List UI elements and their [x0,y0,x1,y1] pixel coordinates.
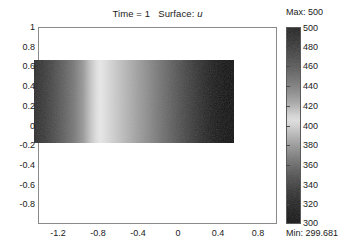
y-tick: -0.8 [1,199,35,209]
x-tick: -0.4 [116,228,160,238]
surface-gradient-image [34,60,234,143]
colorbar-tick: 340 [303,180,318,190]
colorbar-tick-mark [286,145,290,146]
y-tick: 0.2 [1,101,35,111]
surface-plot-figure: Time = 1 Surface: u [0,0,364,250]
y-axis-tick-labels: 1 0.8 0.6 0.4 0.2 0 -0.2 -0.4 -0.6 -0.8 [0,0,35,250]
colorbar-tick-mark [286,185,290,186]
colorbar-tick-mark [286,66,290,67]
y-tick: 1 [1,22,35,32]
colorbar-tick: 500 [303,23,318,33]
colorbar-tick: 360 [303,160,318,170]
colorbar-tick: 420 [303,101,318,111]
y-tick: -0.4 [1,160,35,170]
y-tick: 0 [1,121,35,131]
colorbar-tick-mark [286,47,290,48]
colorbar-tick: 480 [303,42,318,52]
surface-heatmap [34,60,234,143]
x-tick: 0.8 [236,228,280,238]
colorbar-tick: 460 [303,61,318,71]
colorbar-tick-mark [286,165,290,166]
x-tick: -1.2 [36,228,80,238]
colorbar-tick: 380 [303,140,318,150]
colorbar-tick-mark [286,86,290,87]
colorbar-tick: 400 [303,121,318,131]
x-tick: 0.4 [196,228,240,238]
colorbar-tick: 320 [303,199,318,209]
title-prefix: Time = 1 Surface: [112,8,197,19]
x-tick: -0.8 [76,228,120,238]
y-tick: 0.8 [1,42,35,52]
colorbar-tick: 440 [303,81,318,91]
y-tick: 0.4 [1,81,35,91]
page-title: Time = 1 Surface: u [38,8,277,19]
colorbar-tick-mark [286,106,290,107]
colorbar-min-label: Min: 299.681 [286,228,338,238]
colorbar-tick-mark [286,126,290,127]
y-tick: -0.2 [1,140,35,150]
colorbar-tick: 300 [303,218,318,228]
y-tick: -0.6 [1,180,35,190]
y-tick: 0.6 [1,61,35,71]
colorbar-tick-mark [286,204,290,205]
title-variable: u [197,8,202,19]
colorbar-tick-labels: 500 480 460 440 420 400 380 360 340 320 … [303,0,364,250]
x-tick: 0 [156,228,200,238]
